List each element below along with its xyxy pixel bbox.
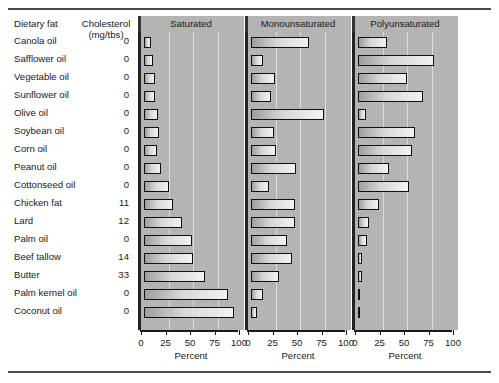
bar — [358, 289, 360, 300]
bar-row — [251, 126, 349, 139]
category-label: Soybean oil — [14, 126, 76, 136]
bar — [251, 127, 274, 138]
bar-row — [251, 180, 349, 193]
bar-row — [358, 288, 456, 301]
top-divider-rule — [8, 8, 491, 10]
bar-row — [251, 288, 349, 301]
panel-monounsaturated-axis-line — [247, 330, 345, 332]
panel-saturated-axis-title: Percent — [138, 350, 244, 361]
category-label: Safflower oil — [14, 54, 76, 64]
cholesterol-value: 0 — [76, 108, 129, 118]
panel-polyunsaturated: Polyunsaturated Percent 0255075100 — [352, 16, 458, 334]
bar-row — [358, 216, 456, 229]
cholesterol-value: 0 — [76, 180, 129, 190]
category-label: Corn oil — [14, 144, 76, 154]
bar — [251, 37, 309, 48]
cholesterol-value: 14 — [76, 252, 129, 262]
figure-root: Dietary fat Cholesterol (mg/tbs) Canola … — [0, 0, 499, 383]
bar-row — [144, 108, 242, 121]
bar-row — [358, 90, 456, 103]
bottom-divider-rule — [8, 371, 491, 373]
bar-row — [251, 252, 349, 265]
bar-row — [144, 126, 242, 139]
bar-row — [358, 72, 456, 85]
axis-tick-label: 75 — [423, 337, 434, 348]
bar-row — [358, 36, 456, 49]
axis-tick-50 — [404, 330, 405, 335]
cholesterol-value: 0 — [76, 126, 129, 136]
bar — [251, 55, 263, 66]
bar-row — [358, 306, 456, 319]
bar — [251, 271, 279, 282]
bar — [358, 217, 369, 228]
bar-row — [144, 162, 242, 175]
bar-row — [144, 216, 242, 229]
category-label: Palm kernel oil — [14, 288, 76, 298]
axis-tick-label: 25 — [267, 337, 278, 348]
category-label: Chicken fat — [14, 198, 76, 208]
bar — [358, 37, 387, 48]
cholesterol-value: 0 — [76, 72, 129, 82]
axis-tick-25 — [273, 330, 274, 335]
bar-row — [358, 270, 456, 283]
cholesterol-value: 0 — [76, 162, 129, 172]
bar — [358, 109, 366, 120]
bar — [358, 55, 434, 66]
panel-polyunsaturated-axis-title: Percent — [352, 350, 458, 361]
category-label: Cottonseed oil — [14, 180, 76, 190]
bar — [144, 127, 159, 138]
axis-tick-label: 50 — [292, 337, 303, 348]
bar — [251, 199, 295, 210]
axis-tick-label: 75 — [209, 337, 220, 348]
bar — [251, 73, 275, 84]
bar-row — [251, 36, 349, 49]
cholesterol-value: 0 — [76, 234, 129, 244]
axis-tick-100 — [453, 330, 454, 335]
bar — [251, 307, 257, 318]
axis-tick-label: 0 — [245, 337, 250, 348]
bar — [144, 217, 182, 228]
axis-tick-label: 0 — [138, 337, 143, 348]
axis-tick-label: 25 — [160, 337, 171, 348]
panel-monounsaturated-title: Monounsaturated — [245, 18, 351, 30]
bar — [358, 307, 360, 318]
axis-tick-75 — [429, 330, 430, 335]
bar — [144, 163, 161, 174]
bar-row — [251, 216, 349, 229]
bar — [358, 91, 423, 102]
panel-saturated: Saturated Percent 0255075100 — [138, 16, 244, 334]
bar — [144, 145, 157, 156]
bar-row — [358, 144, 456, 157]
bar — [144, 271, 205, 282]
axis-tick-0 — [355, 330, 356, 335]
bar-row — [251, 234, 349, 247]
category-label: Peanut oil — [14, 162, 76, 172]
panel-polyunsaturated-axis-line — [354, 330, 452, 332]
bar — [251, 145, 276, 156]
bar — [144, 109, 158, 120]
bar-row — [144, 288, 242, 301]
axis-tick-50 — [297, 330, 298, 335]
bar-row — [358, 252, 456, 265]
cholesterol-value: 11 — [76, 198, 129, 208]
axis-tick-50 — [190, 330, 191, 335]
bar — [358, 73, 407, 84]
bar-row — [251, 54, 349, 67]
column-header-cholesterol-line1: Cholesterol — [82, 18, 131, 29]
axis-tick-0 — [248, 330, 249, 335]
category-label: Palm oil — [14, 234, 76, 244]
axis-tick-25 — [166, 330, 167, 335]
column-header-dietary-fat: Dietary fat — [14, 18, 58, 29]
category-label: Butter — [14, 270, 76, 280]
bar-row — [251, 108, 349, 121]
bar-row — [144, 54, 242, 67]
bar — [358, 235, 367, 246]
bar — [144, 73, 155, 84]
bar-row — [358, 234, 456, 247]
panel-polyunsaturated-plot-area — [352, 32, 458, 330]
panel-monounsaturated: Monounsaturated Percent 0255075100 — [245, 16, 351, 334]
category-label-column: Dietary fat Cholesterol (mg/tbs) Canola … — [14, 16, 136, 334]
bar-row — [144, 252, 242, 265]
bar-row — [251, 270, 349, 283]
cholesterol-value: 0 — [76, 306, 129, 316]
